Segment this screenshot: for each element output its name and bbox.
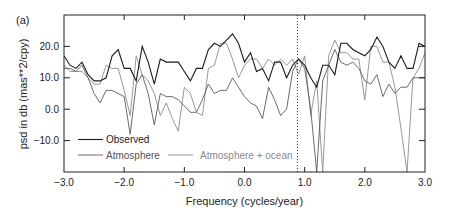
- y-tick-label: 20.0: [40, 41, 60, 52]
- x-tick-label: −3.0: [54, 177, 74, 188]
- x-tick-label: 3.0: [418, 177, 432, 188]
- y-tick-label: 10.0: [40, 72, 60, 83]
- y-axis-ticks: −10.00.010.020.0: [34, 41, 425, 146]
- y-axis-label: psd in db (mas**2/cpy): [17, 39, 29, 150]
- legend-label-observed: Observed: [106, 134, 149, 145]
- panel-label: (a): [16, 14, 29, 26]
- series-line-observed: [64, 34, 425, 87]
- x-tick-label: −1.0: [174, 177, 194, 188]
- legend: Observed Atmosphere Atmosphere + ocean: [78, 134, 293, 161]
- x-tick-label: 1.0: [298, 177, 312, 188]
- psd-line-chart: (a) −3.0−2.0−1.00.01.02.03.0 −10.00.010.…: [0, 0, 451, 210]
- y-tick-label: 0.0: [45, 104, 59, 115]
- x-tick-label: −2.0: [114, 177, 134, 188]
- legend-label-atmosphere-ocean: Atmosphere + ocean: [200, 150, 293, 161]
- legend-label-atmosphere: Atmosphere: [106, 150, 160, 161]
- x-tick-label: 2.0: [358, 177, 372, 188]
- y-tick-label: −10.0: [34, 135, 60, 146]
- x-tick-label: 0.0: [238, 177, 252, 188]
- x-axis-label: Frequency (cycles/year): [186, 195, 303, 207]
- x-axis-ticks: −3.0−2.0−1.00.01.02.03.0: [54, 15, 432, 188]
